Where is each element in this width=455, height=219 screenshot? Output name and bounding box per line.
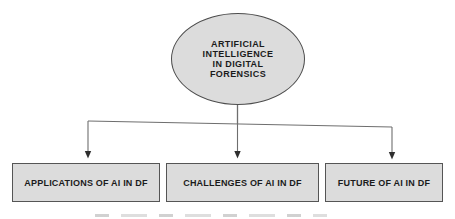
diagram-canvas: ARTIFICIAL INTELLIGENCE IN DIGITAL FOREN… [0,0,455,219]
arrow-down-icon [389,152,395,160]
root-node-label-line: ARTIFICIAL [203,39,274,49]
root-node-ellipse: ARTIFICIAL INTELLIGENCE IN DIGITAL FOREN… [171,13,305,105]
root-node-label-line: FORENSICS [203,69,274,79]
root-node-label-line: INTELLIGENCE [203,49,274,59]
arrow-down-icon [234,151,240,159]
root-node-label: ARTIFICIAL INTELLIGENCE IN DIGITAL FOREN… [203,39,274,79]
node-label: FUTURE OF AI IN DF [338,178,430,188]
arrow-down-icon [85,151,91,159]
node-label: APPLICATIONS OF AI IN DF [24,178,147,188]
node-label: CHALLENGES OF AI IN DF [183,178,302,188]
node-applications-of-ai-in-df: APPLICATIONS OF AI IN DF [12,163,160,202]
connector-rail [88,121,392,127]
node-future-of-ai-in-df: FUTURE OF AI IN DF [325,163,443,202]
node-challenges-of-ai-in-df: CHALLENGES OF AI IN DF [166,163,319,202]
root-node-label-line: IN DIGITAL [203,59,274,69]
cropped-caption-fragment [95,214,327,217]
